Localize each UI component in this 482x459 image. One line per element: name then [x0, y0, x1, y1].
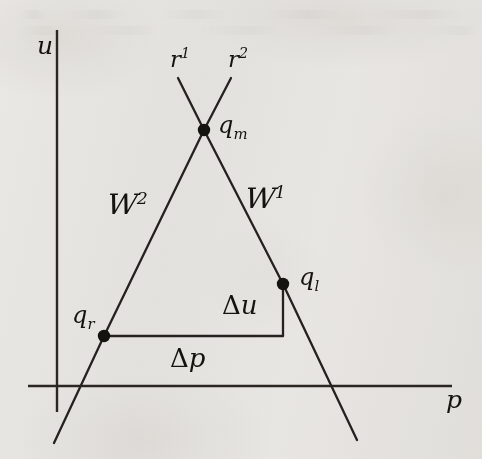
point-marker-qr: [98, 330, 110, 342]
point-label-qr: qr: [72, 303, 95, 332]
delta-p-label: Δp: [170, 345, 205, 371]
curve-label-W1: W1: [246, 184, 286, 213]
curve-label-W2: W2: [108, 190, 148, 219]
x-axis-label: p: [446, 387, 462, 412]
y-axis-label: u: [37, 33, 53, 58]
ray-label-r2: r2: [228, 46, 248, 71]
ray-label-r1: r1: [170, 46, 190, 71]
point-label-qm: qm: [218, 113, 247, 142]
delta-u-label: Δu: [222, 292, 258, 318]
point-marker-ql: [277, 278, 289, 290]
figure-canvas: u p r1 r2 qm ql qr W2 W1 Δu Δp: [0, 0, 482, 459]
point-label-ql: ql: [299, 265, 319, 294]
point-marker-qm: [198, 124, 210, 136]
curve-r1-W2: [54, 78, 204, 443]
